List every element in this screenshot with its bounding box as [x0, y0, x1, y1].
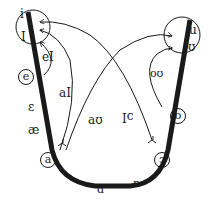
- vowel-label-alpha: ɑ: [97, 184, 104, 196]
- diphthong-arrow-au: [66, 35, 172, 150]
- diphthong-label-ai: aI: [59, 87, 71, 99]
- diphthong-label-au: aʊ: [88, 114, 103, 126]
- vowel-label-open-o: c: [154, 152, 170, 168]
- diphthong-label-ou: oʊ: [150, 68, 163, 80]
- vowel-label-epsilon: ε: [28, 101, 34, 113]
- vowel-label-ae: æ: [28, 124, 39, 136]
- diphthong-label-ei: eI: [42, 51, 54, 63]
- diphthong-label-oi: ɔI: [122, 111, 133, 123]
- vowel-label-i: i: [20, 8, 24, 20]
- vowel-label-I: I: [21, 31, 26, 43]
- vowel-label-turned-alpha: ɑ: [133, 178, 140, 190]
- vowel-label-upsilon: ʊ: [188, 41, 195, 53]
- vowel-label-a: a: [40, 152, 56, 168]
- vowel-label-u: u: [189, 24, 197, 36]
- vowel-label-o: o: [170, 108, 186, 124]
- vowel-label-e: e: [18, 69, 34, 85]
- origin-fork-o: [148, 136, 156, 143]
